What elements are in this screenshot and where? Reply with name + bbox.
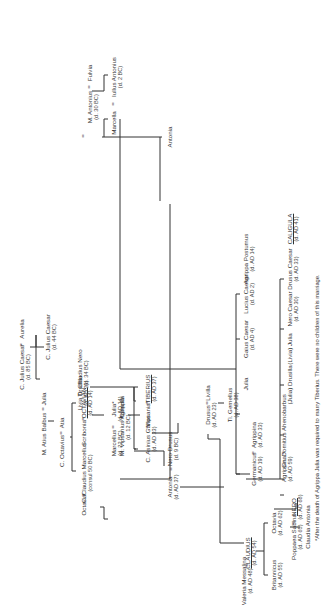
person-fulvia: Fulvia [86,65,93,82]
person-octavia-daughter: Octavia (d. AD 62) [270,510,284,535]
person-cn-domitius: Cn. Domitius Ahenobarbus [280,394,287,468]
person-ti-gemellus: Ti. Gemellus (d. AD 38) [226,388,240,423]
marriage-symbol: = [110,425,116,429]
person-livia-drusilla: Livia Drusilla (d. AD 29) [76,375,90,410]
marriage-symbol: = [110,102,116,106]
person-agrippa-postumus: Agrippa Postumus (d. AD 14) [242,234,256,285]
person-valeria-messalina: Valeria Messalina (d. AD 48) [240,557,254,605]
person-c-julius-caesar-elder: C. Julius Caesar (d. 85 BC) [18,344,32,389]
person-poppaea-sabina: Poppaea Sabina (d. AD 65) [290,514,304,560]
person-drusus-caesar: Drusus Caesar (d. AD 33) [286,248,300,289]
person-m-vipsanius-agrippa: M. Vipsanius Agrippa (d. 12 BC) [118,398,132,456]
person-c-octavius: C. Octavius [58,435,65,467]
person-antonia: Antonia [166,127,173,148]
person-drusus: Drusus (d. AD 23) [204,402,218,427]
person-agrippina-elder: Agrippina (d. AD 33) [250,422,264,448]
person-aurelia: Aurelia [18,319,25,338]
person-tiberius: TIBERIUS (d. AD 37) [144,375,158,404]
person-m-atius-balbus: M. Atius Balbus [40,413,47,456]
marriage-symbol: = [40,407,46,411]
person-nero-caesar: Nero Caesar (d. AD 30) [286,291,300,326]
person-julia-sister: Julia [40,393,47,406]
person-livia-julia: (Livia) Julia [286,333,293,364]
marriage-symbol: = [168,467,174,471]
person-iullus-antonius: Iullus Antonius (d. 2 BC) [110,57,124,97]
footnote: *After the death of Agrippa Julia was re… [314,274,320,541]
marriage-symbol: = [250,451,256,455]
person-octavia: Octavia [80,495,87,516]
person-caligula: CALIGULA (d. AD 41) [286,214,300,245]
person-atia: Atia [58,418,65,429]
person-m-antonius: M. Antonius (d. 30 BC) [86,91,100,123]
person-germanicus: Germanicus (d. AD 19) [250,452,264,485]
marriage-symbol: = [86,85,92,89]
person-antonia-minor: Antonia (d. AD 37) [166,474,180,499]
person-britannicus: Britannicus (d. AD 55) [270,560,284,591]
person-claudia-antonia: Claudia Antonia [304,505,311,548]
person-livilla: Livilla [204,385,211,400]
person-gaius-caesar: Gaius Caesar (d. AD 4) [242,320,256,358]
person-nero-drusus: Nero Drusus (d. 9 BC) [166,432,180,467]
person-c-julius-caesar: C. Julius Caesar (d. 44 BC) [44,314,58,359]
person-c-asinius-gallus: C. Asinius Gallus (d. AD 33) [144,416,158,463]
person-marcella: Marcella [110,111,117,134]
person-julia-drusilla: (Julia) Drusilla [286,365,293,404]
marriage-symbol: = [80,134,86,138]
person-julia-granddaughter: Julia [242,378,249,391]
